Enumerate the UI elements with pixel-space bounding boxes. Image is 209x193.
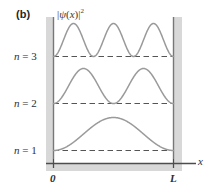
level-2-value: 2 [31, 97, 37, 109]
density-curve-n1 [54, 118, 174, 151]
x-tick-label-L: L [170, 172, 177, 184]
well-walls [54, 17, 174, 168]
density-curve-n3 [54, 24, 174, 57]
x-axis-name: x [198, 155, 203, 167]
floor-band [46, 164, 182, 171]
figure-panel-b: (b) |ψ(x)|2 n = 3 n = 2 n = 1 0 L x [0, 0, 209, 193]
density-curve-n2 [54, 69, 174, 104]
level-2-equals: = [20, 97, 32, 109]
right-wall-band [174, 17, 182, 169]
level-3-equals: = [20, 50, 32, 62]
level-1-equals: = [20, 144, 32, 156]
probability-density-curves [54, 24, 174, 151]
level-label-n3: n = 3 [14, 50, 37, 62]
x-tick-label-0: 0 [50, 172, 56, 184]
level-label-n2: n = 2 [14, 97, 37, 109]
level-3-value: 3 [31, 50, 37, 62]
level-1-value: 1 [31, 144, 37, 156]
level-label-n1: n = 1 [14, 144, 37, 156]
